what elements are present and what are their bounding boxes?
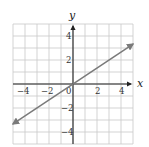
coordinate-plane: x y −4 −2 0 2 4 4 2 −2 −4	[0, 0, 149, 147]
y-tick-label: −4	[61, 127, 74, 137]
y-tick-label: 4	[66, 31, 71, 41]
x-tick-label: 2	[95, 86, 100, 96]
x-tick-label: −2	[41, 86, 54, 96]
x-axis-label: x	[137, 77, 144, 90]
x-tick-label: 4	[119, 86, 124, 96]
x-tick-label: −4	[17, 86, 30, 96]
y-tick-label: 2	[66, 55, 71, 65]
y-axis-label: y	[68, 9, 76, 22]
y-tick-label: −2	[61, 103, 74, 113]
